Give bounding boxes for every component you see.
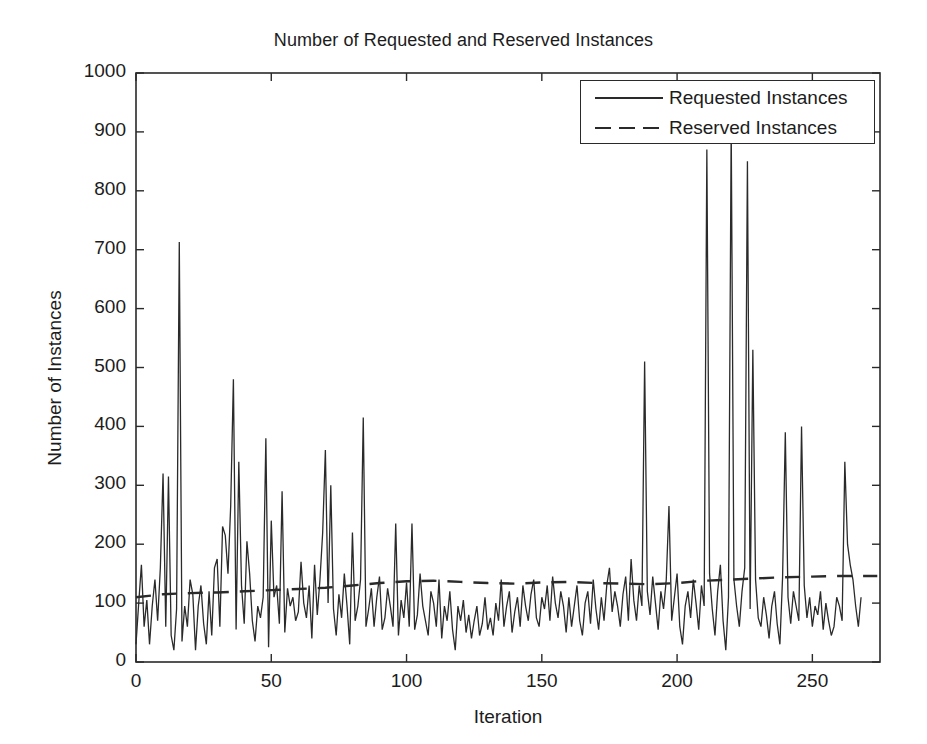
x-tick-label: 150 — [507, 670, 577, 692]
series-reserved-instances — [136, 576, 877, 597]
legend: Requested Instances Reserved Instances — [580, 80, 875, 144]
y-tick-label: 200 — [54, 531, 126, 553]
y-tick-label: 400 — [54, 413, 126, 435]
legend-label-reserved: Reserved Instances — [669, 117, 837, 139]
y-tick-label: 300 — [54, 472, 126, 494]
series-requested-instances — [136, 126, 861, 650]
y-tick-label: 800 — [54, 178, 126, 200]
y-tick-label: 600 — [54, 296, 126, 318]
legend-item-reserved: Reserved Instances — [581, 113, 876, 143]
chart-figure: Number of Requested and Reserved Instanc… — [0, 0, 927, 744]
legend-label-requested: Requested Instances — [669, 87, 848, 109]
axis-ticks — [136, 73, 880, 662]
legend-line-dashed-icon — [593, 118, 665, 138]
x-tick-label: 200 — [642, 670, 712, 692]
y-tick-label: 1000 — [54, 60, 126, 82]
legend-line-solid-icon — [593, 88, 665, 108]
x-tick-label: 50 — [236, 670, 306, 692]
y-tick-label: 700 — [54, 237, 126, 259]
x-tick-label: 0 — [101, 670, 171, 692]
y-tick-label: 500 — [54, 355, 126, 377]
y-tick-label: 0 — [54, 649, 126, 671]
y-tick-label: 900 — [54, 119, 126, 141]
axes-frame — [136, 73, 880, 662]
legend-item-requested: Requested Instances — [581, 83, 876, 113]
y-tick-label: 100 — [54, 590, 126, 612]
x-tick-label: 250 — [777, 670, 847, 692]
x-tick-label: 100 — [372, 670, 442, 692]
